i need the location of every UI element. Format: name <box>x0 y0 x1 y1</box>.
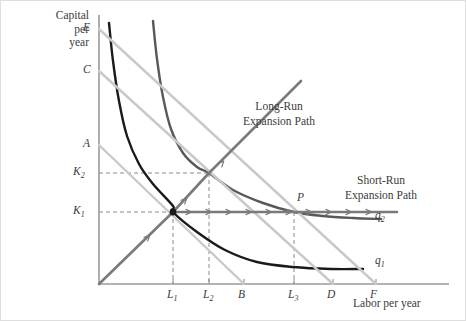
annotation-line: Short-Run <box>331 173 431 188</box>
y-axis-title-line-1: Capital <box>21 9 89 23</box>
short-run-expansion-path-label: Short-RunExpansion Path <box>331 173 431 203</box>
axes <box>99 15 449 284</box>
point-p-label: P <box>297 191 304 205</box>
x-tick-label-f: F <box>370 288 377 302</box>
y-axis-title-line-3: year <box>21 36 89 50</box>
dashed-guides <box>99 173 294 284</box>
y-axis-title: Capital per year <box>21 9 89 50</box>
x-axis-title: Labor per year <box>353 297 421 311</box>
x-tick-label-l2: L2 <box>203 288 213 304</box>
key-points <box>170 209 177 216</box>
y-tick-label-e: E <box>83 21 90 35</box>
x-tick-label-l3: L3 <box>288 288 298 304</box>
long-run-optimum-q1 <box>170 209 177 216</box>
y-tick-label-k2: K2 <box>73 165 85 181</box>
long-run-expansion-path-label: Long-RunExpansion Path <box>229 99 329 129</box>
curve-series <box>99 21 397 284</box>
y-tick-label-a: A <box>83 137 90 151</box>
isoquant-isocost-diagram: Capital per year Labor per year ECAK2K1 … <box>0 0 466 321</box>
x-tick-label-d: D <box>327 288 335 302</box>
y-axis-title-line-2: per <box>21 23 89 37</box>
isoquant-q1-label: q1 <box>375 254 385 270</box>
annotation-line: Expansion Path <box>229 114 329 129</box>
y-tick-label-c: C <box>83 63 91 77</box>
annotation-line: Expansion Path <box>331 188 431 203</box>
y-tick-label-k1: K1 <box>73 204 85 220</box>
isocost-E-F <box>99 29 376 284</box>
isoquant-q2-label: q2 <box>375 209 385 225</box>
annotation-line: Long-Run <box>229 99 329 114</box>
x-tick-label-b: B <box>238 288 245 302</box>
x-tick-label-l1: L1 <box>167 288 177 304</box>
